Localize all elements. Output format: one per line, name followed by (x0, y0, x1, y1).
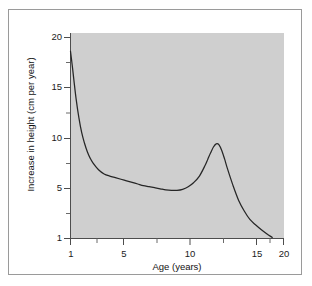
y-tick-label-15: 15 (36, 81, 62, 92)
axis-spines (70, 33, 284, 239)
height-velocity-curve (71, 51, 273, 237)
y-axis-title: Increase in height (cm per year) (25, 22, 36, 228)
x-tick-label-10: 10 (177, 248, 203, 259)
x-tick-label-15: 15 (244, 248, 270, 259)
x-tick-label-1: 1 (58, 248, 84, 259)
growth-velocity-figure: 20 15 10 5 1 1 5 10 15 20 Increase in he… (0, 0, 312, 286)
y-tick-label-10: 10 (36, 132, 62, 143)
y-tick-label-1: 1 (36, 232, 62, 243)
x-tick-label-20: 20 (271, 248, 297, 259)
y-tick-label-20: 20 (36, 31, 62, 42)
x-major-ticks (71, 239, 284, 246)
y-tick-label-5: 5 (36, 182, 62, 193)
x-tick-label-5: 5 (111, 248, 137, 259)
plot-svg (0, 0, 312, 286)
x-minor-ticks (97, 239, 270, 244)
x-axis-title: Age (years) (70, 261, 284, 272)
y-major-ticks (64, 38, 70, 239)
